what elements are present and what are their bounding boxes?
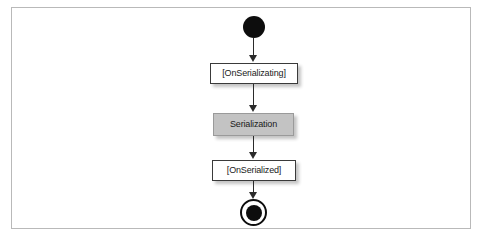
figure-frame: [OnSerializating] Serialization [OnSeria… — [11, 7, 471, 229]
edge-initial-to-onserializating — [253, 38, 254, 56]
diagram-flow-column: [OnSerializating] Serialization [OnSeria… — [12, 8, 472, 230]
initial-node — [243, 16, 265, 38]
arrowhead-icon — [249, 105, 257, 112]
final-node — [240, 199, 267, 226]
action-node-onserializating-label: [OnSerializating] — [222, 69, 285, 78]
arrowhead-icon — [249, 152, 257, 159]
state-node-serialization: Serialization — [213, 113, 294, 136]
arrowhead-icon — [249, 192, 257, 199]
final-node-inner-dot — [246, 205, 262, 221]
edge-serialization-to-onserialized — [253, 136, 254, 153]
state-node-serialization-label: Serialization — [230, 120, 277, 129]
action-node-onserialized: [OnSerialized] — [212, 160, 296, 181]
arrowhead-icon — [249, 55, 257, 62]
activity-diagram: [OnSerializating] Serialization [OnSeria… — [12, 8, 472, 230]
action-node-onserialized-label: [OnSerialized] — [227, 166, 281, 175]
action-node-onserializating: [OnSerializating] — [210, 63, 298, 84]
edge-onserializating-to-serialization — [253, 84, 254, 106]
